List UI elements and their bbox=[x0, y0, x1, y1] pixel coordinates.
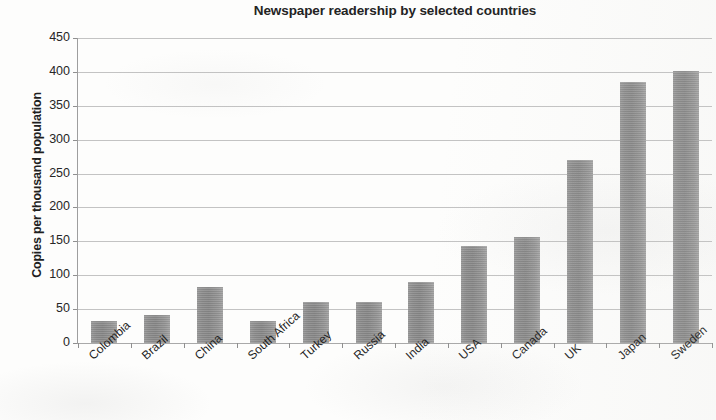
y-axis-tick-label: 50 bbox=[26, 301, 70, 315]
bar bbox=[673, 71, 699, 343]
x-tick-mark bbox=[395, 343, 396, 348]
bar bbox=[461, 246, 487, 343]
x-tick-mark bbox=[131, 343, 132, 348]
gridline bbox=[78, 275, 712, 276]
gridline bbox=[78, 207, 712, 208]
chart-title: Newspaper readership by selected countri… bbox=[78, 3, 712, 18]
y-axis-tick-label: 150 bbox=[26, 233, 70, 247]
y-axis-line bbox=[77, 38, 78, 344]
x-tick-mark bbox=[78, 343, 79, 348]
x-tick-mark bbox=[342, 343, 343, 348]
x-tick-mark bbox=[659, 343, 660, 348]
bar bbox=[620, 82, 646, 343]
gridline bbox=[78, 309, 712, 310]
gridline bbox=[78, 140, 712, 141]
y-axis-tick-label: 100 bbox=[26, 267, 70, 281]
y-axis-tick-label: 200 bbox=[26, 199, 70, 213]
x-tick-mark bbox=[237, 343, 238, 348]
x-tick-mark bbox=[184, 343, 185, 348]
y-axis-tick-label: 0 bbox=[26, 335, 70, 349]
x-tick-mark bbox=[501, 343, 502, 348]
y-axis-tick-label: 300 bbox=[26, 132, 70, 146]
gridline bbox=[78, 241, 712, 242]
x-tick-mark bbox=[289, 343, 290, 348]
x-tick-mark bbox=[554, 343, 555, 348]
gridline bbox=[78, 174, 712, 175]
plot-area bbox=[78, 38, 712, 343]
y-axis-tick-label: 450 bbox=[26, 30, 70, 44]
x-axis-tick-label: UK bbox=[562, 341, 584, 363]
y-axis-tick-label: 350 bbox=[26, 98, 70, 112]
x-tick-mark bbox=[448, 343, 449, 348]
gridline bbox=[78, 106, 712, 107]
y-axis-tick-label: 400 bbox=[26, 64, 70, 78]
y-axis-tick-label: 250 bbox=[26, 166, 70, 180]
x-tick-mark bbox=[606, 343, 607, 348]
bar bbox=[567, 160, 593, 343]
x-tick-mark bbox=[712, 343, 713, 348]
